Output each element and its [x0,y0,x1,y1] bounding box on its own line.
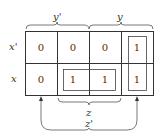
brace-y-prime [26,22,89,29]
cell-1-3: 1 [134,74,140,85]
label-y-prime: y' [52,11,61,22]
cell-0-1: 0 [70,42,76,53]
arrow-head-right [135,96,139,101]
brace-z [58,98,121,105]
row-label-x-prime: x' [9,41,17,52]
cell-0-0: 0 [38,42,44,53]
label-z-prime: z' [84,118,93,129]
row-label-x: x [11,73,17,84]
cell-1-1: 1 [70,74,76,85]
brace-y [89,22,153,29]
cell-1-2: 1 [102,74,108,85]
cell-0-2: 0 [102,42,108,53]
karnaugh-map-diagram: y' y x' x 0 0 0 1 0 1 1 1 z z' [0,0,161,139]
arrow-head-left [39,96,43,101]
cell-0-3: 1 [134,42,140,53]
label-y: y [116,11,123,22]
cell-1-0: 0 [38,74,44,85]
label-z: z [85,107,92,118]
